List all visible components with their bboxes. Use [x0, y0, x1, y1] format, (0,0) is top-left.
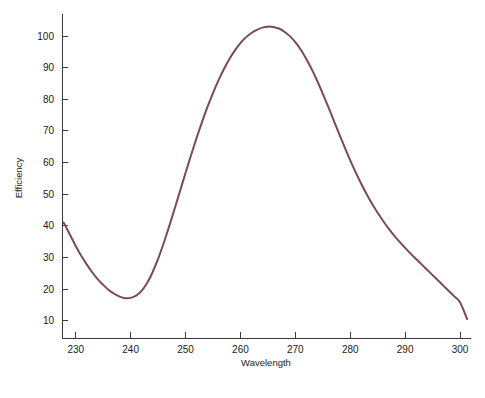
data-line-series [64, 27, 468, 319]
line-chart: 102030405060708090100 230240250260270280… [0, 0, 485, 398]
x-axis-ticks: 230240250260270280290300 [67, 332, 468, 355]
x-tick-label: 230 [67, 344, 84, 355]
y-tick-label: 80 [43, 94, 55, 105]
x-axis-title: Wavelength [241, 357, 291, 368]
y-tick-label: 60 [43, 157, 55, 168]
y-tick-label: 40 [43, 220, 55, 231]
chart-plot-area: 102030405060708090100 230240250260270280… [0, 0, 485, 398]
x-tick-label: 250 [177, 344, 194, 355]
y-tick-label: 10 [43, 315, 55, 326]
y-axis-title: Efficiency [13, 158, 24, 199]
y-axis-ticks: 102030405060708090100 [37, 31, 68, 326]
x-tick-label: 240 [122, 344, 139, 355]
y-tick-label: 90 [43, 62, 55, 73]
x-tick-label: 300 [452, 344, 469, 355]
x-tick-label: 280 [342, 344, 359, 355]
x-tick-label: 260 [232, 344, 249, 355]
y-tick-label: 20 [43, 284, 55, 295]
x-tick-label: 290 [397, 344, 414, 355]
y-tick-label: 30 [43, 252, 55, 263]
y-tick-label: 70 [43, 125, 55, 136]
data-series-group [64, 27, 468, 319]
y-tick-label: 100 [37, 31, 54, 42]
x-tick-label: 270 [287, 344, 304, 355]
y-tick-label: 50 [43, 189, 55, 200]
